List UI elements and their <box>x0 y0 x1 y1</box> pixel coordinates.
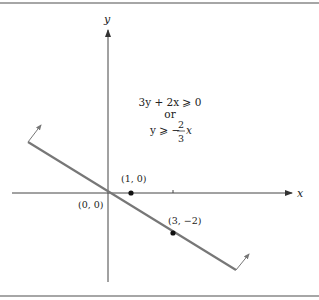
boundary-line <box>28 142 236 270</box>
y-axis-label: y <box>103 13 111 26</box>
inequality-graph: x y (0, 0) (1, 0) (3, −2) 3y + 2x ⩾ 0 or… <box>0 0 319 300</box>
origin-label: (0, 0) <box>78 199 104 210</box>
inequality-or: or <box>164 108 176 120</box>
inequality-line-1: 3y + 2x ⩾ 0 <box>138 96 201 108</box>
point-3-neg2-label: (3, −2) <box>168 215 202 226</box>
direction-arrow-left <box>28 125 41 142</box>
point-3-neg2 <box>170 230 175 235</box>
inequality-line-3-prefix: y ⩾ − <box>149 124 180 136</box>
inequality-line-3-suffix: x <box>186 124 192 136</box>
fraction-numerator: 2 <box>178 119 184 130</box>
x-axis-label: x <box>297 187 304 200</box>
point-1-0-label: (1, 0) <box>121 173 147 184</box>
fraction-denominator: 3 <box>178 133 184 144</box>
direction-arrow-right <box>236 254 249 270</box>
point-1-0 <box>128 190 133 195</box>
